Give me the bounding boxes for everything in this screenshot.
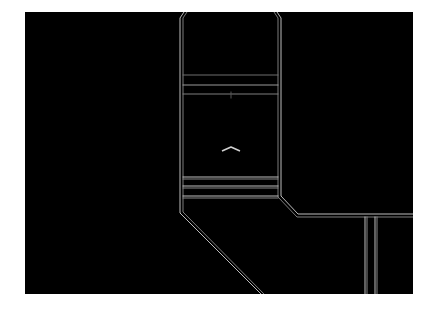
left-wall-inner bbox=[183, 12, 264, 294]
map-wireframe bbox=[25, 12, 413, 294]
game-viewport[interactable] bbox=[25, 12, 413, 294]
left-wall-outer bbox=[180, 12, 261, 294]
right-wall-outer bbox=[277, 12, 413, 214]
right-wall-inner bbox=[274, 12, 413, 217]
chevron-up-icon bbox=[222, 147, 240, 151]
